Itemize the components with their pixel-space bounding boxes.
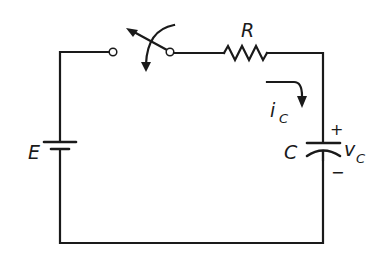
current-arrowhead-icon [297, 96, 307, 108]
switch-throw-arrowhead-icon [141, 62, 151, 72]
current-label: i [270, 99, 276, 121]
capacitor-symbol [307, 143, 340, 160]
switch-throw-arc [146, 25, 174, 64]
switch-terminal-left [109, 48, 117, 56]
switch-terminal-right [166, 48, 174, 56]
voltage-plus-sign: + [330, 120, 343, 139]
wire-top-left [60, 52, 113, 142]
voltage-label-subscript: C [356, 151, 366, 166]
wire-resistor-right [267, 53, 323, 143]
capacitor-label: C [284, 141, 298, 163]
resistor-label: R [241, 19, 254, 41]
voltage-minus-sign: − [331, 163, 344, 182]
current-label-subscript: C [279, 111, 289, 126]
battery-symbol [44, 142, 76, 149]
switch-blade-arrowhead-icon [126, 28, 138, 37]
switch-symbol [109, 25, 174, 72]
current-arrow-path [267, 82, 302, 96]
battery-label: E [28, 141, 40, 163]
resistor-symbol [224, 46, 267, 60]
rc-circuit-diagram: E R i C C + − v C [0, 0, 390, 255]
voltage-label: v [344, 138, 356, 160]
